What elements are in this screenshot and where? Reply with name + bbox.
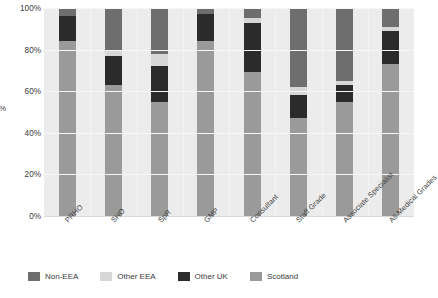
legend-swatch (178, 272, 190, 281)
bar-segment[interactable] (382, 31, 399, 64)
plot-area (44, 8, 414, 216)
stacked-bar[interactable] (244, 8, 261, 216)
bar-segment[interactable] (151, 8, 168, 54)
bar-segment[interactable] (382, 64, 399, 216)
legend-label: Scotland (267, 272, 298, 281)
bar-segment[interactable] (105, 85, 122, 216)
legend-swatch (100, 272, 112, 281)
x-axis-labels: PRHOSHOSpRGMPConsultantStaff GradeAssoci… (44, 216, 414, 264)
bar-slot (322, 8, 368, 216)
y-axis-tick-label: 60% (3, 87, 41, 96)
stacked-bar[interactable] (197, 8, 214, 216)
y-axis-tick-label: 0% (3, 212, 41, 221)
legend-label: Other UK (195, 272, 228, 281)
bar-segment[interactable] (290, 8, 307, 87)
category-separator (368, 8, 369, 216)
bar-segment[interactable] (290, 95, 307, 118)
bar-segment[interactable] (59, 8, 76, 16)
stacked-bar[interactable] (59, 8, 76, 216)
bar-slot (44, 8, 90, 216)
category-separator (322, 8, 323, 216)
y-axis-tick-label: 40% (3, 128, 41, 137)
chart-legend: Non-EEAOther EEAOther UKScotland (28, 272, 320, 281)
bar-slot (90, 8, 136, 216)
bar-segment[interactable] (197, 14, 214, 41)
bar-segment[interactable] (244, 8, 261, 18)
stacked-bar[interactable] (336, 8, 353, 216)
bar-segment[interactable] (105, 8, 122, 50)
category-separator (183, 8, 184, 216)
category-separator (275, 8, 276, 216)
bar-segment[interactable] (59, 16, 76, 41)
bar-slot (229, 8, 275, 216)
legend-item[interactable]: Non-EEA (28, 272, 78, 281)
bar-segment[interactable] (197, 41, 214, 216)
legend-item[interactable]: Other EEA (100, 272, 155, 281)
legend-swatch (28, 272, 40, 281)
stacked-bar[interactable] (290, 8, 307, 216)
bar-segment[interactable] (105, 56, 122, 85)
bar-segment[interactable] (244, 72, 261, 216)
bar-segment[interactable] (244, 23, 261, 73)
legend-label: Other EEA (117, 272, 155, 281)
y-axis-title: % (0, 104, 6, 113)
category-separator (137, 8, 138, 216)
legend-label: Non-EEA (45, 272, 78, 281)
bar-slot (137, 8, 183, 216)
bar-segment[interactable] (59, 41, 76, 216)
stacked-bar[interactable] (105, 8, 122, 216)
bar-segment[interactable] (336, 8, 353, 81)
bar-segment[interactable] (151, 54, 168, 66)
legend-item[interactable]: Other UK (178, 272, 228, 281)
bar-segment[interactable] (336, 85, 353, 102)
stacked-bar[interactable] (151, 8, 168, 216)
bar-segment[interactable] (151, 66, 168, 101)
clipped-title (120, 0, 400, 2)
category-separator (90, 8, 91, 216)
y-axis-tick-label: 20% (3, 170, 41, 179)
category-separator (229, 8, 230, 216)
legend-item[interactable]: Scotland (250, 272, 298, 281)
bar-slot (183, 8, 229, 216)
y-axis-tick-label: 80% (3, 45, 41, 54)
bar-segment[interactable] (151, 102, 168, 216)
bar-slot (275, 8, 321, 216)
bar-segment[interactable] (336, 102, 353, 216)
y-axis: 0%20%40%60%80%100% (0, 0, 41, 298)
legend-swatch (250, 272, 262, 281)
y-axis-tick-label: 100% (3, 4, 41, 13)
bar-segment[interactable] (382, 8, 399, 27)
